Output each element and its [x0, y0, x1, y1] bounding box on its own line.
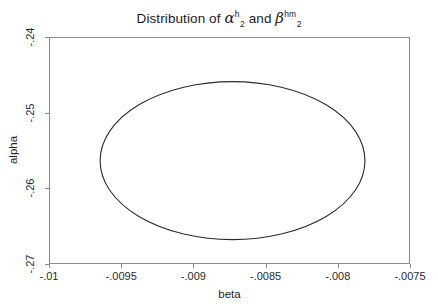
y-tick-label: -.25	[24, 103, 36, 122]
y-tick-mark	[45, 113, 49, 114]
chart-title-conjunction: and	[245, 11, 276, 26]
x-tick-label: -.0075	[394, 270, 425, 282]
y-tick-label: -.26	[24, 179, 36, 198]
beta-symbol: βhm2	[275, 9, 301, 27]
y-tick-mark	[45, 188, 49, 189]
x-tick-label: -.008	[325, 270, 350, 282]
x-tick-mark	[338, 264, 339, 268]
x-tick-label: -.0095	[106, 270, 137, 282]
y-tick-label: -.27	[24, 255, 36, 274]
y-tick-label: -.24	[24, 28, 36, 47]
x-tick-mark	[121, 264, 122, 268]
y-tick-mark	[45, 37, 49, 38]
x-tick-mark	[410, 264, 411, 268]
y-tick-mark	[45, 264, 49, 265]
ellipse-plot	[50, 38, 409, 263]
x-axis-title: beta	[49, 288, 410, 300]
chart-canvas: Distribution of αh2 and βhm2 -.01-.0095-…	[0, 0, 438, 308]
chart-title: Distribution of αh2 and βhm2	[0, 9, 438, 27]
plot-frame	[49, 37, 410, 264]
x-tick-label: -.009	[181, 270, 206, 282]
x-tick-mark	[266, 264, 267, 268]
x-tick-label: -.01	[40, 270, 59, 282]
x-tick-mark	[193, 264, 194, 268]
chart-title-prefix: Distribution of	[137, 11, 225, 26]
beta-subscript: 2	[297, 19, 302, 29]
alpha-symbol: αh2	[224, 9, 244, 27]
alpha-superscript: h	[235, 9, 240, 19]
distribution-ellipse	[100, 82, 365, 240]
x-tick-label: -.0085	[250, 270, 281, 282]
x-tick-mark	[49, 264, 50, 268]
beta-superscript: hm	[284, 9, 296, 19]
y-axis-title: alpha	[7, 136, 19, 164]
